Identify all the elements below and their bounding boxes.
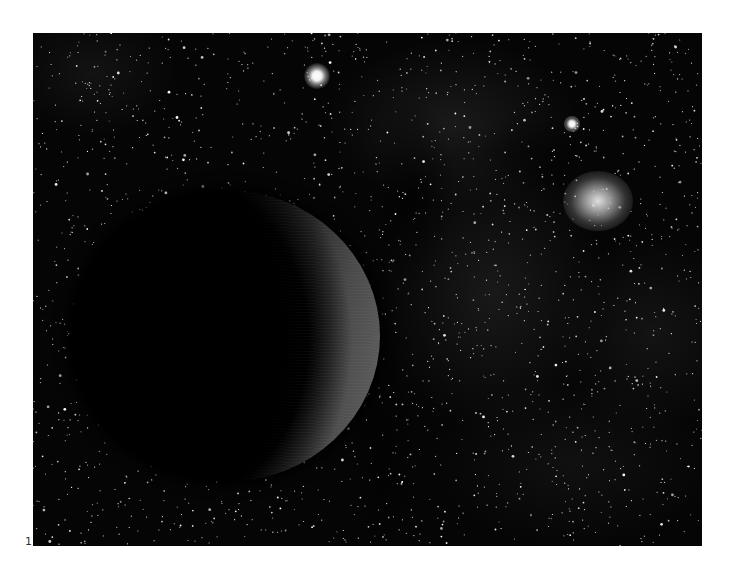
planet <box>70 190 380 482</box>
planet-surface-texture <box>70 190 380 482</box>
panel-label: 1 <box>25 536 32 547</box>
space-image <box>33 33 702 546</box>
small-star <box>564 116 580 132</box>
bright-star <box>304 63 330 89</box>
glowing-cluster <box>563 171 633 231</box>
